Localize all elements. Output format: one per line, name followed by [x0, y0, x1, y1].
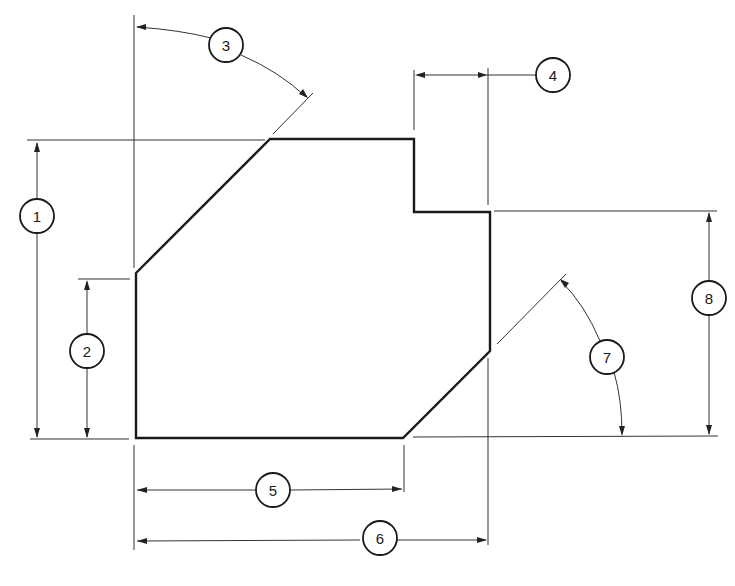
- callout-6: 6: [363, 521, 397, 555]
- dimension-lines: [37, 27, 709, 541]
- callout-4: 4: [536, 58, 570, 92]
- svg-text:4: 4: [549, 67, 557, 84]
- callout-1: 1: [20, 199, 54, 233]
- svg-text:2: 2: [83, 343, 91, 360]
- callout-2: 2: [70, 334, 104, 368]
- svg-text:3: 3: [222, 37, 230, 54]
- svg-text:7: 7: [603, 349, 611, 366]
- svg-text:8: 8: [705, 290, 713, 307]
- svg-text:5: 5: [269, 482, 277, 499]
- svg-text:1: 1: [33, 208, 41, 225]
- part-outline: [136, 139, 490, 438]
- callout-7: 7: [590, 340, 624, 374]
- extension-lines: [27, 15, 718, 550]
- svg-text:6: 6: [376, 530, 384, 547]
- callout-3: 3: [209, 28, 243, 62]
- callout-5: 5: [256, 473, 290, 507]
- technical-drawing: 1 2 3 4 5 6 7 8: [0, 0, 735, 586]
- callout-8: 8: [692, 281, 726, 315]
